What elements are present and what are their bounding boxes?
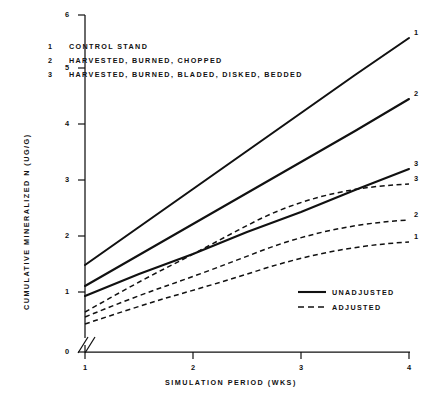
series-3-unadjusted	[85, 169, 409, 296]
y-tick-label-0: 0	[60, 347, 74, 356]
x-tick-label-2: 2	[186, 363, 200, 372]
y-tick-label-4: 4	[60, 119, 74, 128]
treatment-key-number-3: 3	[48, 70, 52, 79]
y-tick-label-6: 6	[60, 10, 74, 19]
chart-figure: 1 CONTROL STAND 2 HARVESTED, BURNED, CHO…	[0, 0, 427, 395]
y-axis-title: CUMULATIVE MINERALIZED N (UG/G)	[22, 133, 31, 310]
treatment-key-label-3: HARVESTED, BURNED, BLADED, DISKED, BEDDE…	[69, 70, 303, 79]
curve-end-label-1-adjusted: 1	[414, 232, 418, 241]
axis-lines	[85, 15, 410, 352]
treatment-key-label-1: CONTROL STAND	[69, 42, 148, 51]
curve-end-label-3-adjusted: 3	[414, 174, 418, 183]
x-tick-marks	[85, 352, 409, 359]
style-legend-label-unadjusted: UNADJUSTED	[332, 288, 395, 297]
y-tick-label-2: 2	[60, 231, 74, 240]
y-tick-label-1: 1	[60, 287, 74, 296]
curve-end-label-3-unadjusted: 3	[414, 159, 418, 168]
y-tick-label-5: 5	[60, 63, 74, 72]
x-axis-title: SIMULATION PERIOD (WKS)	[165, 378, 297, 387]
curve-end-label-1-unadjusted: 1	[414, 28, 418, 37]
style-legend-label-adjusted: ADJUSTED	[332, 303, 382, 312]
x-tick-label-3: 3	[294, 363, 308, 372]
curve-end-label-2-adjusted: 2	[414, 210, 418, 219]
y-tick-label-3: 3	[60, 175, 74, 184]
treatment-key-label-2: HARVESTED, BURNED, CHOPPED	[69, 56, 223, 65]
y-axis-break-icon	[78, 337, 95, 353]
style-legend-swatches	[298, 292, 326, 307]
curve-end-label-2-unadjusted: 2	[414, 89, 418, 98]
x-tick-label-4: 4	[402, 363, 416, 372]
series-2-unadjusted	[85, 99, 409, 286]
treatment-key-number-2: 2	[48, 56, 52, 65]
x-tick-label-1: 1	[78, 363, 92, 372]
treatment-key-number-1: 1	[48, 42, 52, 51]
y-tick-marks	[78, 15, 85, 352]
